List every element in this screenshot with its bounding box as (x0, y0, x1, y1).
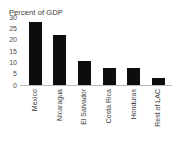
bar-series (23, 17, 171, 85)
x-tick-label: Rest of LAC (155, 89, 163, 127)
y-tick-label: 0 (1, 82, 17, 89)
x-label-slot: Rest of LAC (146, 87, 171, 145)
y-tick-label: 25 (1, 25, 17, 32)
bar-slot (146, 17, 171, 85)
y-tick-label: 20 (1, 36, 17, 43)
bar (152, 78, 165, 85)
bar (78, 61, 91, 85)
y-tick-label: 15 (1, 48, 17, 55)
x-label-slot: Mexico (23, 87, 48, 145)
plot-area (23, 17, 171, 85)
x-label-slot: Honduras (121, 87, 146, 145)
x-tick-label: Honduras (130, 89, 138, 119)
x-tick-label: Nicaragua (56, 89, 64, 121)
x-tick-label: Costa Rica (105, 89, 113, 123)
x-axis-category-labels: MexicoNicaraguaEl SalvadorCosta RicaHond… (23, 87, 171, 145)
bar-slot (72, 17, 97, 85)
x-label-slot: Nicaragua (48, 87, 73, 145)
bar (29, 22, 42, 85)
y-tick-label: 10 (1, 59, 17, 66)
x-label-slot: El Salvador (72, 87, 97, 145)
x-label-slot: Costa Rica (97, 87, 122, 145)
bar-slot (121, 17, 146, 85)
x-tick-label: El Salvador (81, 89, 89, 125)
bar (103, 68, 116, 85)
bar-slot (48, 17, 73, 85)
y-tick-label: 5 (1, 70, 17, 77)
bar (53, 35, 66, 85)
bar-slot (23, 17, 48, 85)
x-axis-line (20, 85, 172, 86)
chart-title: Percent of GDP (9, 8, 63, 17)
bar-slot (97, 17, 122, 85)
bar (127, 68, 140, 85)
y-tick-label: 30 (1, 14, 17, 21)
x-tick-label: Mexico (32, 89, 40, 111)
bar-chart: Percent of GDP 302520151050 MexicoNicara… (0, 0, 174, 147)
